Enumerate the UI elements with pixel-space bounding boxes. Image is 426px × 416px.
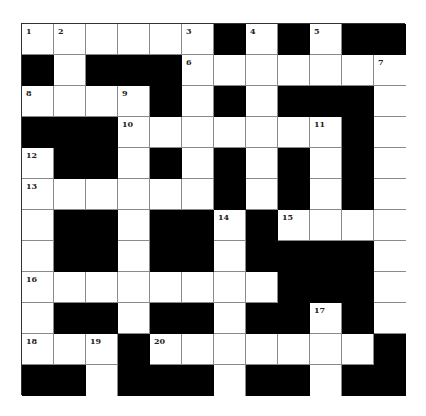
letter-cell[interactable] [118,210,150,241]
letter-cell[interactable] [374,303,406,334]
letter-cell[interactable] [150,179,182,210]
letter-cell[interactable] [182,86,214,117]
clue-number: 1 [26,27,32,35]
letter-cell[interactable] [86,365,118,396]
letter-cell[interactable]: 1 [22,24,54,55]
letter-cell[interactable] [310,210,342,241]
letter-cell[interactable] [22,210,54,241]
letter-cell[interactable] [214,117,246,148]
letter-cell[interactable] [54,86,86,117]
letter-cell[interactable]: 20 [150,334,182,365]
letter-cell[interactable] [214,241,246,272]
letter-cell[interactable] [278,55,310,86]
letter-cell[interactable]: 6 [182,55,214,86]
clue-number: 14 [218,213,229,221]
letter-cell[interactable]: 12 [22,148,54,179]
letter-cell[interactable] [374,272,406,303]
letter-cell[interactable]: 19 [86,334,118,365]
letter-cell[interactable] [118,303,150,334]
letter-cell[interactable] [150,117,182,148]
letter-cell[interactable] [310,179,342,210]
letter-cell[interactable] [182,148,214,179]
letter-cell[interactable] [342,334,374,365]
letter-cell[interactable]: 10 [118,117,150,148]
letter-cell[interactable] [118,179,150,210]
letter-cell[interactable] [54,272,86,303]
letter-cell[interactable] [214,334,246,365]
letter-cell[interactable] [310,365,342,396]
letter-cell[interactable] [374,117,406,148]
letter-cell[interactable] [278,117,310,148]
letter-cell[interactable]: 14 [214,210,246,241]
letter-cell[interactable] [246,272,278,303]
letter-cell[interactable] [374,86,406,117]
block-cell [86,117,118,148]
letter-cell[interactable] [86,179,118,210]
letter-cell[interactable] [118,24,150,55]
letter-cell[interactable] [246,334,278,365]
letter-cell[interactable]: 4 [246,24,278,55]
letter-cell[interactable] [54,179,86,210]
letter-cell[interactable] [246,179,278,210]
letter-cell[interactable] [342,210,374,241]
letter-cell[interactable] [86,272,118,303]
clue-number: 6 [186,58,192,66]
block-cell [150,55,182,86]
letter-cell[interactable]: 9 [118,86,150,117]
letter-cell[interactable] [182,179,214,210]
clue-number: 20 [154,337,165,345]
block-cell [86,148,118,179]
block-cell [310,241,342,272]
letter-cell[interactable] [374,241,406,272]
letter-cell[interactable] [342,55,374,86]
letter-cell[interactable] [118,272,150,303]
letter-cell[interactable] [214,272,246,303]
letter-cell[interactable] [22,303,54,334]
letter-cell[interactable] [214,365,246,396]
letter-cell[interactable]: 13 [22,179,54,210]
letter-cell[interactable]: 16 [22,272,54,303]
letter-cell[interactable]: 11 [310,117,342,148]
letter-cell[interactable] [22,241,54,272]
letter-cell[interactable]: 18 [22,334,54,365]
letter-cell[interactable] [54,334,86,365]
block-cell [182,241,214,272]
letter-cell[interactable] [118,148,150,179]
letter-cell[interactable] [278,334,310,365]
letter-cell[interactable] [374,179,406,210]
letter-cell[interactable] [86,86,118,117]
letter-cell[interactable] [310,148,342,179]
letter-cell[interactable] [310,55,342,86]
clue-number: 8 [26,89,32,97]
letter-cell[interactable] [374,148,406,179]
letter-cell[interactable]: 8 [22,86,54,117]
letter-cell[interactable]: 5 [310,24,342,55]
letter-cell[interactable]: 15 [278,210,310,241]
letter-cell[interactable] [182,334,214,365]
letter-cell[interactable] [150,272,182,303]
block-cell [214,24,246,55]
letter-cell[interactable]: 2 [54,24,86,55]
letter-cell[interactable] [374,210,406,241]
letter-cell[interactable]: 17 [310,303,342,334]
letter-cell[interactable] [182,117,214,148]
letter-cell[interactable] [214,55,246,86]
letter-cell[interactable] [86,24,118,55]
letter-cell[interactable] [246,117,278,148]
clue-number: 17 [314,306,325,314]
letter-cell[interactable] [150,24,182,55]
letter-cell[interactable] [246,55,278,86]
letter-cell[interactable] [214,303,246,334]
letter-cell[interactable]: 3 [182,24,214,55]
letter-cell[interactable] [246,148,278,179]
letter-cell[interactable] [118,241,150,272]
block-cell [54,303,86,334]
letter-cell[interactable] [54,55,86,86]
clue-number: 12 [26,151,37,159]
letter-cell[interactable] [310,334,342,365]
letter-cell[interactable] [182,272,214,303]
letter-cell[interactable] [246,86,278,117]
block-cell [246,210,278,241]
block-cell [342,365,374,396]
letter-cell[interactable]: 7 [374,55,406,86]
